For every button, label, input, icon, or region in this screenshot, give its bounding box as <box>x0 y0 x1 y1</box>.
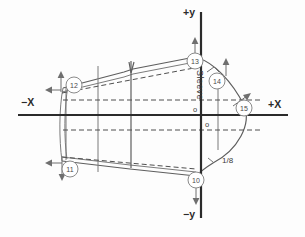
marker-15-label: 15 <box>240 105 248 112</box>
arrow-head-14-up <box>223 58 230 65</box>
arrow-head-12-up <box>58 71 65 78</box>
marker-15[interactable]: 15 <box>236 100 252 116</box>
sleeve-pattern-diagram: −X +X +y −y o o Sleeve 1/8 <box>0 0 305 237</box>
eighth-fraction-label: 1/8 <box>222 156 234 165</box>
arrow-head-11-left <box>45 160 52 167</box>
marker-11[interactable]: 11 <box>62 161 78 177</box>
marker-10-label: 10 <box>192 177 200 184</box>
sleeve-text-label: Sleeve <box>195 70 205 100</box>
marker-13-label: 13 <box>191 58 199 65</box>
y-positive-label: +y <box>183 6 195 18</box>
marker-12[interactable]: 12 <box>66 77 82 93</box>
arrow-head-13-up <box>192 37 199 44</box>
origin-lower-label: o <box>205 120 209 129</box>
x-positive-label: +X <box>268 98 281 110</box>
y-negative-label: −y <box>183 208 195 220</box>
dashed-top-diagonal <box>62 68 194 93</box>
arrow-head-10-down <box>193 198 200 205</box>
marker-arrows <box>45 37 251 205</box>
marker-14-label: 14 <box>213 78 221 85</box>
arrow-head-15-upright <box>243 93 251 101</box>
x-negative-label: −X <box>21 96 34 108</box>
marker-12-label: 12 <box>70 82 78 89</box>
arrow-connector-14 <box>207 67 219 72</box>
marker-13[interactable]: 13 <box>187 53 203 69</box>
marker-11-label: 11 <box>66 166 73 173</box>
origin-upper-label: o <box>193 105 197 114</box>
diagram-canvas: −X +X +y −y o o Sleeve 1/8 <box>0 0 305 237</box>
marker-10[interactable]: 10 <box>188 172 204 188</box>
armhole-eighth-tick <box>208 158 213 162</box>
marker-14[interactable]: 14 <box>209 73 225 89</box>
sleeve-left-seam <box>60 88 63 161</box>
arrow-head-12-left <box>45 87 52 94</box>
sleeve-top-edge <box>63 57 195 88</box>
